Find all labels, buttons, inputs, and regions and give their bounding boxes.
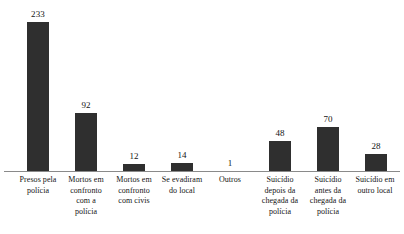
bar-value-label: 12 [129,151,138,162]
bar-slot: 28 [348,0,404,172]
bar-rect[interactable] [75,113,97,172]
bar-rect[interactable] [317,127,339,172]
category-label: Suicídio emoutro local [346,175,404,196]
bar-chart: 233 92 12 14 [0,0,404,234]
bar-value-label: 233 [31,9,45,20]
bar-value-label: 92 [81,100,90,111]
bar-value-label: 48 [275,128,284,139]
bar-rect[interactable] [365,154,387,172]
bar-value-label: 28 [371,141,380,152]
x-axis-baseline [4,171,400,172]
bar-slot: 1 [202,0,258,172]
bar-rect[interactable] [269,141,291,172]
bar-value-label: 1 [228,158,233,169]
plot-area: 233 92 12 14 [0,0,404,172]
bar-value-label: 14 [177,150,186,161]
bar-group[interactable]: 1 [202,0,258,172]
bar-value-label: 70 [323,114,332,125]
bar-rect[interactable] [27,22,49,172]
bar-group[interactable]: 28 [348,0,404,172]
category-labels: Presos pelapolícia Mortos emconfrontocom… [0,175,404,234]
